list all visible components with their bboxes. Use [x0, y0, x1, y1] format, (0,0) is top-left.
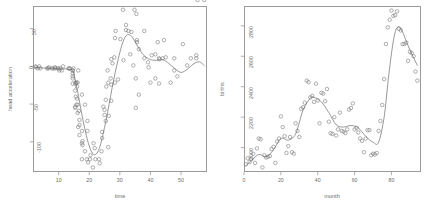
- data-point: [274, 161, 278, 165]
- data-point: [72, 67, 76, 71]
- data-point: [203, 0, 207, 2]
- data-point: [146, 61, 150, 65]
- data-point: [384, 42, 388, 46]
- smooth-fit-line: [246, 27, 417, 166]
- data-point: [61, 65, 65, 69]
- data-point: [288, 135, 292, 139]
- data-point: [93, 146, 97, 150]
- data-point: [261, 166, 265, 170]
- data-point: [116, 78, 120, 82]
- data-point: [381, 103, 385, 107]
- data-point: [312, 100, 316, 104]
- data-point: [130, 30, 134, 34]
- data-point: [318, 122, 322, 126]
- data-point: [189, 57, 193, 61]
- data-point: [83, 150, 87, 154]
- data-point: [336, 128, 340, 132]
- data-point: [334, 134, 338, 138]
- data-point: [416, 79, 420, 83]
- data-point: [386, 26, 390, 30]
- data-point: [156, 40, 160, 44]
- data-point: [414, 70, 418, 74]
- data-point: [173, 57, 177, 61]
- data-point: [406, 59, 410, 63]
- y-tick-label: 2600: [248, 56, 254, 68]
- data-point: [92, 142, 96, 146]
- data-point: [196, 0, 200, 2]
- panel-right-births: month births 020406080200022002400260028…: [214, 0, 429, 207]
- data-point: [287, 144, 291, 148]
- data-point: [143, 29, 147, 33]
- data-point: [106, 145, 110, 149]
- data-point: [154, 77, 158, 81]
- data-point: [176, 75, 180, 79]
- data-point: [279, 115, 283, 119]
- data-point: [164, 56, 168, 60]
- data-point: [103, 108, 107, 112]
- data-point: [80, 93, 84, 97]
- data-point: [382, 77, 386, 81]
- data-point: [113, 36, 117, 40]
- data-point: [358, 137, 362, 141]
- data-point: [277, 137, 281, 141]
- plot-area-right: [214, 0, 429, 207]
- data-point: [105, 85, 109, 89]
- data-point: [135, 12, 139, 16]
- x-tick-label: 0: [243, 177, 246, 183]
- data-point: [333, 115, 337, 119]
- data-point: [150, 54, 154, 58]
- data-point: [98, 162, 102, 166]
- data-point: [128, 53, 132, 57]
- x-tick-label: 20: [86, 177, 92, 183]
- scatter-points: [244, 9, 419, 169]
- y-tick-label: 2000: [248, 148, 254, 160]
- data-point: [298, 135, 302, 139]
- x-tick-label: 50: [178, 177, 184, 183]
- data-point: [113, 56, 117, 60]
- data-point: [255, 147, 259, 151]
- y-tick-label: 2800: [248, 26, 254, 38]
- data-point: [78, 133, 82, 137]
- y-tick-label: 0: [28, 66, 34, 69]
- data-point: [149, 81, 153, 85]
- data-point: [351, 102, 355, 106]
- data-point: [283, 134, 287, 138]
- data-point: [362, 150, 366, 154]
- data-point: [109, 77, 113, 81]
- data-point: [78, 118, 82, 122]
- y-axis-title-right: births: [219, 82, 225, 96]
- data-point: [390, 9, 394, 13]
- data-point: [100, 150, 104, 154]
- data-point: [395, 10, 399, 14]
- data-point: [89, 154, 93, 158]
- data-point: [86, 129, 90, 133]
- data-point: [81, 139, 85, 143]
- data-point: [103, 113, 107, 117]
- y-axis-title-left: head acceleration: [7, 67, 13, 111]
- x-tick-label: 60: [352, 177, 358, 183]
- y-tick-label: 2200: [248, 117, 254, 129]
- smooth-fit-line: [35, 34, 204, 154]
- data-point: [281, 125, 285, 129]
- panel-left-head-acceleration: time head acceleration 1020304050-100-50…: [0, 0, 215, 207]
- x-axis-title-left: time: [115, 193, 126, 199]
- data-point: [327, 120, 331, 124]
- x-tick-label: 30: [117, 177, 123, 183]
- data-point: [314, 82, 318, 86]
- data-point: [360, 139, 364, 143]
- data-point: [181, 42, 185, 46]
- x-tick-label: 40: [147, 177, 153, 183]
- data-point: [73, 89, 77, 93]
- x-axis-title-right: month: [324, 193, 340, 199]
- data-point: [114, 29, 118, 33]
- data-point: [80, 129, 84, 133]
- data-point: [357, 131, 361, 135]
- data-point: [147, 66, 151, 70]
- x-tick-label: 40: [315, 177, 321, 183]
- data-point: [137, 93, 141, 97]
- data-point: [106, 69, 110, 73]
- data-point: [97, 158, 101, 162]
- y-tick-label: -100: [36, 142, 42, 153]
- data-point: [323, 99, 327, 103]
- data-point: [154, 53, 158, 57]
